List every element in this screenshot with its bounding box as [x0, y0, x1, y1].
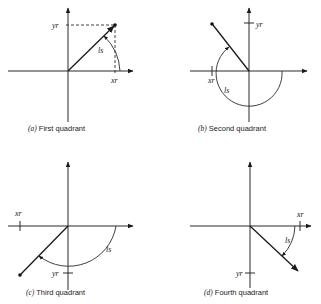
panel-second-quadrant: yr xr ls (b) Second quadrant: [190, 8, 307, 133]
y-label: yr: [51, 21, 60, 30]
caption: (b) Second quadrant: [198, 124, 267, 133]
y-label: yr: [235, 269, 244, 278]
x-label: xr: [207, 76, 216, 85]
panel-first-quadrant: yr xr ls (a) First quadrant: [8, 8, 133, 133]
panel-fourth-quadrant: xr yr ls (d) Fourth quadrant: [190, 162, 311, 297]
x-label: xr: [296, 210, 305, 219]
x-label: xr: [110, 76, 119, 85]
angle-label: ls: [224, 86, 229, 95]
caption: (a) First quadrant: [28, 124, 86, 133]
position-vector: [21, 226, 68, 274]
y-label: yr: [255, 20, 264, 29]
angle-label: ls: [106, 245, 111, 254]
caption: (c) Third quadrant: [26, 288, 86, 297]
y-label: yr: [51, 269, 60, 278]
quadrant-figure: yr xr ls (a) First quadrant yr xr ls (b)…: [0, 0, 321, 304]
angle-arc: [104, 36, 120, 71]
point-marker: [18, 273, 22, 277]
point-marker: [210, 22, 214, 26]
angle-arc: [39, 226, 116, 266]
position-vector: [213, 25, 249, 71]
position-vector: [68, 26, 114, 71]
position-vector: [250, 226, 298, 271]
point-marker: [113, 23, 117, 27]
angle-label: ls: [98, 46, 103, 55]
x-label: xr: [14, 209, 23, 218]
angle-label: ls: [285, 236, 290, 245]
panel-third-quadrant: xr yr ls (c) Third quadrant: [8, 162, 133, 297]
caption: (d) Fourth quadrant: [204, 288, 269, 297]
